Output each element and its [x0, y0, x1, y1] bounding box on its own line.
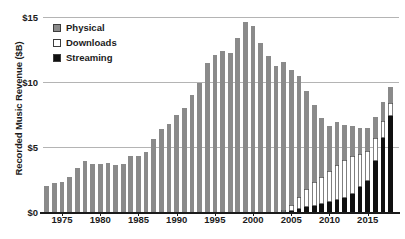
bar	[381, 102, 386, 212]
bar	[319, 118, 324, 212]
bar	[350, 126, 355, 212]
bar	[251, 26, 256, 212]
bar-segment-physical	[312, 105, 317, 182]
bar	[358, 128, 363, 212]
bar	[83, 161, 88, 212]
bar	[312, 105, 317, 212]
legend-label-streaming: Streaming	[66, 52, 112, 63]
bar-segment-physical	[151, 139, 156, 212]
legend-item-streaming: Streaming	[53, 51, 117, 64]
y-tick-label: $15	[22, 12, 38, 23]
legend-label-downloads: Downloads	[66, 37, 117, 48]
x-tick-label: 1990	[166, 214, 187, 225]
bar-segment-downloads	[327, 171, 332, 202]
bar-segment-physical	[98, 164, 103, 212]
x-tick-label: 1975	[52, 214, 73, 225]
bar	[335, 122, 340, 212]
bar-segment-streaming	[381, 138, 386, 212]
chart-container: Recorded Music Revenue ($B) $0$5$10$15 1…	[0, 0, 405, 239]
bar-segment-downloads	[373, 138, 378, 161]
chart-legend: Physical Downloads Streaming	[53, 21, 117, 64]
bar-segment-streaming	[327, 202, 332, 212]
y-tick-label: $0	[27, 207, 38, 218]
bar-segment-physical	[319, 118, 324, 177]
bar-segment-downloads	[335, 165, 340, 200]
bar-segment-physical	[75, 168, 80, 212]
bar-segment-physical	[83, 161, 88, 212]
bar-segment-downloads	[342, 160, 347, 198]
bar	[205, 63, 210, 213]
y-tick-label: $5	[27, 142, 38, 153]
bar-segment-streaming	[304, 207, 309, 212]
bar	[281, 62, 286, 212]
bar	[289, 70, 294, 212]
bar-segment-physical	[228, 53, 233, 212]
bar-segment-physical	[297, 76, 302, 197]
bar-segment-streaming	[373, 161, 378, 212]
bar-segment-physical	[350, 126, 355, 156]
bar	[342, 125, 347, 212]
bar-segment-physical	[373, 117, 378, 138]
x-tick-label: 2005	[281, 214, 302, 225]
bar	[60, 182, 65, 212]
bar	[274, 66, 279, 212]
bar	[136, 156, 141, 212]
bar-segment-downloads	[365, 151, 370, 181]
bar	[243, 22, 248, 212]
bar-segment-physical	[167, 124, 172, 212]
bar	[190, 95, 195, 212]
bar-segment-physical	[243, 22, 248, 212]
bar	[52, 183, 57, 212]
bar	[113, 165, 118, 212]
x-tick-label: 1980	[90, 214, 111, 225]
bar-segment-physical	[128, 156, 133, 212]
bar-segment-physical	[358, 128, 363, 154]
bar-segment-physical	[281, 62, 286, 210]
bar-segment-streaming	[297, 209, 302, 212]
bar	[266, 56, 271, 212]
bar-segment-physical	[388, 87, 393, 103]
x-tick-label: 2000	[243, 214, 264, 225]
bar-segment-physical	[90, 164, 95, 212]
bar-segment-physical	[197, 83, 202, 212]
bar-segment-physical	[235, 38, 240, 212]
bar-segment-physical	[52, 183, 57, 212]
bar	[228, 53, 233, 212]
legend-swatch-physical-icon	[53, 24, 61, 32]
bar-segment-physical	[213, 55, 218, 212]
x-tick-label: 1985	[128, 214, 149, 225]
bar	[213, 55, 218, 212]
bar	[304, 91, 309, 212]
bar	[174, 115, 179, 213]
bar-segment-downloads	[358, 154, 363, 188]
bar	[67, 177, 72, 212]
bar-segment-physical	[60, 182, 65, 212]
bar-segment-physical	[113, 165, 118, 212]
bar-segment-streaming	[358, 187, 363, 212]
bar-segment-streaming	[335, 200, 340, 212]
bar-segment-physical	[205, 63, 210, 213]
bar-segment-physical	[342, 125, 347, 160]
bar-segment-physical	[44, 186, 49, 212]
bar-segment-physical	[365, 128, 370, 151]
bar-segment-downloads	[350, 156, 355, 194]
bar-segment-streaming	[312, 206, 317, 213]
bar	[44, 186, 49, 212]
bar	[327, 126, 332, 212]
bar-segment-streaming	[365, 181, 370, 212]
bar-segment-streaming	[350, 194, 355, 212]
legend-item-physical: Physical	[53, 21, 117, 34]
bar-segment-physical	[289, 70, 294, 205]
bar-segment-downloads	[312, 182, 317, 205]
legend-swatch-streaming-icon	[53, 54, 61, 62]
bar	[98, 164, 103, 212]
bar	[90, 164, 95, 212]
bar-segment-physical	[174, 115, 179, 213]
bar-segment-physical	[190, 95, 195, 212]
bar-segment-physical	[67, 177, 72, 212]
bar-segment-downloads	[388, 103, 393, 116]
x-tick-label: 1995	[204, 214, 225, 225]
legend-item-downloads: Downloads	[53, 36, 117, 49]
bar	[159, 129, 164, 212]
bar	[151, 139, 156, 212]
